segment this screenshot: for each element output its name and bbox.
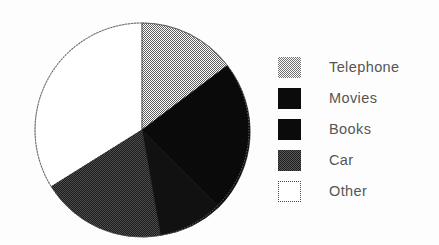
legend-item-car[interactable]: Car xyxy=(278,145,436,176)
other-swatch-icon xyxy=(278,181,301,202)
legend-item-books[interactable]: Books xyxy=(278,114,436,145)
car-swatch-icon xyxy=(278,150,301,171)
legend-label-car: Car xyxy=(329,153,354,168)
movies-swatch-icon xyxy=(278,88,301,109)
pie-plot-area xyxy=(0,0,268,245)
legend-label-movies: Movies xyxy=(329,91,377,106)
pie-svg xyxy=(0,0,268,245)
books-swatch-icon xyxy=(278,119,301,140)
legend-label-other: Other xyxy=(329,184,367,199)
legend-item-telephone[interactable]: Telephone xyxy=(278,52,436,83)
legend-item-other[interactable]: Other xyxy=(278,176,436,207)
telephone-swatch-icon xyxy=(278,57,301,78)
legend-label-books: Books xyxy=(329,122,371,137)
chart-legend: Telephone Movies Books Car Other xyxy=(278,52,436,207)
legend-label-telephone: Telephone xyxy=(329,60,400,75)
legend-item-movies[interactable]: Movies xyxy=(278,83,436,114)
pie-chart: Telephone Movies Books Car Other xyxy=(0,0,439,245)
